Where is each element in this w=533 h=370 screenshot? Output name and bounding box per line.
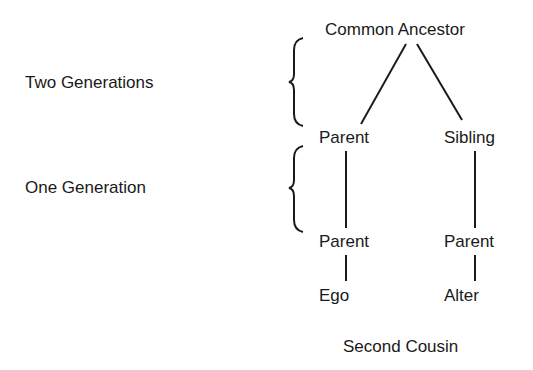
node-alter: Alter [444, 286, 479, 306]
label-one-generation: One Generation [25, 178, 146, 198]
edge-ancestor-sibling [417, 44, 462, 120]
node-sibling: Sibling [444, 128, 495, 148]
node-ego: Ego [319, 286, 349, 306]
label-two-generations: Two Generations [25, 73, 154, 93]
brace-two-generations [289, 38, 303, 126]
edge-ancestor-parent [361, 44, 406, 124]
node-parent-upper-left: Parent [319, 128, 369, 148]
node-parent-lower-left: Parent [319, 232, 369, 252]
diagram-caption: Second Cousin [343, 337, 458, 357]
node-parent-lower-right: Parent [444, 232, 494, 252]
brace-one-generation [289, 146, 303, 232]
node-common-ancestor: Common Ancestor [325, 20, 465, 40]
